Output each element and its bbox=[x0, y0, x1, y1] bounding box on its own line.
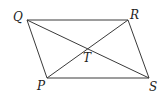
parallelogram-diagram: Q R S P T bbox=[0, 0, 165, 98]
vertex-label-s: S bbox=[149, 80, 157, 94]
vertex-label-q: Q bbox=[13, 10, 23, 24]
vertex-label-p: P bbox=[36, 79, 46, 93]
intersection-label-t: T bbox=[83, 51, 92, 65]
vertex-label-r: R bbox=[129, 8, 139, 22]
diagonal-pr bbox=[47, 20, 128, 78]
